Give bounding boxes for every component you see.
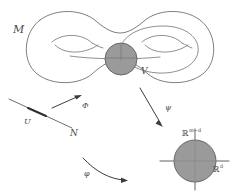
right-handle-upper-arc bbox=[142, 35, 182, 43]
label-map-phi-upper: Φ bbox=[82, 101, 89, 110]
label-neighborhood-V: V bbox=[141, 66, 149, 76]
label-map-phi-lower: φ bbox=[84, 169, 90, 178]
arrow-phi-lower-head bbox=[121, 178, 128, 184]
left-handle-lower-arc bbox=[55, 45, 98, 52]
label-axis-horizontal-base: ℝ bbox=[213, 165, 220, 174]
right-handle-lower-arc bbox=[145, 45, 188, 52]
arrow-psi-line bbox=[140, 88, 161, 124]
arrow-phi-upper-line bbox=[52, 96, 79, 108]
label-manifold-M: M bbox=[12, 23, 25, 36]
figure-canvas: M V U N Φ ψ φ ℝ m−d ℝ d bbox=[0, 0, 234, 194]
manifold-chart-figure: M V U N Φ ψ φ ℝ m−d ℝ d bbox=[0, 0, 234, 194]
label-axis-vertical-exponent: m−d bbox=[189, 127, 202, 133]
arrow-phi-upper-head bbox=[74, 95, 82, 100]
label-axis-horizontal-exponent: d bbox=[220, 163, 224, 169]
label-submanifold-N: N bbox=[69, 128, 79, 138]
label-open-set-U: U bbox=[24, 117, 31, 126]
label-map-psi: ψ bbox=[165, 103, 172, 112]
open-set-segment-U bbox=[28, 108, 46, 116]
label-axis-vertical-base: ℝ bbox=[182, 129, 189, 138]
left-handle-upper-arc bbox=[52, 35, 92, 43]
